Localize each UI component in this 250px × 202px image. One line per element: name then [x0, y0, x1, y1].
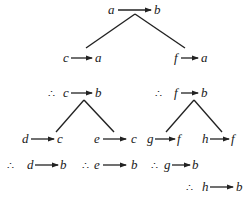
node-therefore-h-implies-b: ∴ h b	[186, 179, 243, 195]
node-to: b	[192, 157, 199, 172]
node-therefore-f-implies-b: ∴ f b	[155, 85, 208, 101]
therefore-icon: ∴	[82, 160, 89, 173]
edge-c-to-e	[84, 100, 114, 132]
node-from: h	[202, 179, 209, 194]
node-therefore-c-implies-b: ∴ c b	[48, 85, 102, 101]
node-from: c	[63, 50, 69, 65]
node-c-implies-a: c a	[63, 50, 102, 65]
edge-f-to-g	[166, 100, 194, 132]
node-g-implies-f: g f	[147, 131, 183, 146]
node-to: a	[95, 50, 102, 65]
node-from: e	[94, 157, 100, 172]
node-to: b	[60, 157, 67, 172]
node-from: h	[202, 131, 209, 146]
edge-f-to-h	[194, 100, 222, 132]
node-to: b	[236, 179, 243, 194]
node-therefore-e-implies-b: ∴ e b	[82, 157, 138, 173]
therefore-icon: ∴	[186, 182, 193, 195]
node-d-implies-c: d c	[22, 131, 63, 146]
node-from: f	[174, 85, 180, 100]
node-h-implies-f: h f	[202, 131, 237, 146]
node-to: b	[201, 85, 208, 100]
node-from: a	[108, 2, 115, 17]
edge-root-to-c	[86, 14, 135, 48]
node-from: d	[22, 131, 29, 146]
node-to: f	[177, 131, 183, 146]
node-to: b	[131, 157, 138, 172]
edge-root-to-f	[135, 14, 185, 48]
inference-tree-diagram: a b c a f a ∴ c b ∴ f b d c e c	[0, 0, 250, 202]
therefore-icon: ∴	[155, 88, 162, 101]
therefore-icon: ∴	[48, 88, 55, 101]
node-f-implies-a: f a	[174, 50, 208, 65]
node-to: c	[131, 131, 137, 146]
node-therefore-g-implies-b: ∴ g b	[151, 157, 199, 173]
node-e-implies-c: e c	[94, 131, 137, 146]
node-to: b	[95, 85, 102, 100]
node-from: e	[94, 131, 100, 146]
edge-c-to-d	[56, 100, 84, 132]
node-to: f	[231, 131, 237, 146]
node-to: a	[201, 50, 208, 65]
node-therefore-d-implies-b: ∴ d b	[7, 157, 67, 173]
node-from: f	[174, 50, 180, 65]
therefore-icon: ∴	[7, 160, 14, 173]
node-from: g	[147, 131, 154, 146]
node-from: g	[164, 157, 171, 172]
therefore-icon: ∴	[151, 160, 158, 173]
node-from: c	[63, 85, 69, 100]
node-to: b	[154, 2, 161, 17]
node-to: c	[57, 131, 63, 146]
node-from: d	[27, 157, 34, 172]
